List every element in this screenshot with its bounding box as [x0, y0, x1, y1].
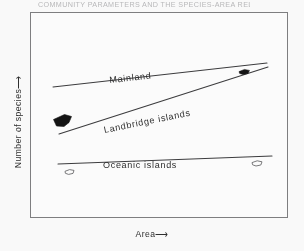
- y-axis-arrow-icon: ⟶: [13, 76, 23, 89]
- y-axis-title-text: Number of species: [13, 89, 23, 168]
- series-line-landbridge: [59, 67, 268, 134]
- x-axis-title: Area⟶: [0, 229, 304, 239]
- plot-frame: Mainland Landbridge islands Oceanic isla…: [30, 12, 288, 218]
- series-label-oceanic: Oceanic islands: [103, 160, 177, 170]
- series-line-mainland: [53, 63, 267, 87]
- x-axis-arrow-icon: ⟶: [155, 229, 168, 239]
- marker-landbridge-island-large: [54, 115, 72, 127]
- x-axis-title-text: Area: [136, 229, 156, 239]
- marker-oceanic-island-right: [252, 161, 262, 166]
- y-axis-title: Number of species⟶: [13, 62, 23, 182]
- marker-oceanic-island-left: [65, 170, 74, 175]
- figure-caption-fragment: COMMUNITY PARAMETERS AND THE SPECIES-ARE…: [38, 0, 250, 7]
- species-area-figure: COMMUNITY PARAMETERS AND THE SPECIES-ARE…: [0, 0, 304, 251]
